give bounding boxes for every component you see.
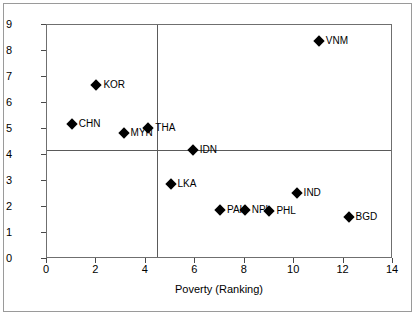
reference-line-vertical: [157, 25, 158, 257]
plot-area: CHNKORMYNTHALKAIDNPAKNPLPHLINDVNMBGD: [46, 24, 392, 258]
data-point-label: CHN: [79, 117, 101, 130]
y-axis-tick-label: 4: [0, 149, 12, 160]
x-axis-tick-label: 12: [323, 264, 363, 275]
diamond-marker-icon: [214, 204, 225, 215]
data-point-label: THA: [155, 121, 175, 134]
y-axis-tick-mark: [41, 50, 46, 51]
diamond-marker-icon: [313, 35, 324, 46]
x-axis-tick-mark: [145, 258, 146, 263]
diamond-marker-icon: [91, 79, 102, 90]
x-axis-tick-mark: [46, 258, 47, 263]
x-axis-tick-label: 4: [125, 264, 165, 275]
diamond-marker-icon: [291, 187, 302, 198]
x-axis-tick-mark: [95, 258, 96, 263]
data-point-label: IDN: [200, 143, 217, 156]
x-axis-tick-mark: [194, 258, 195, 263]
x-axis-tick-label: 6: [174, 264, 214, 275]
data-point-label: IND: [304, 186, 321, 199]
y-axis-tick-mark: [41, 180, 46, 181]
y-axis-tick-label: 3: [0, 175, 12, 186]
y-axis-tick-mark: [41, 128, 46, 129]
y-axis-tick-mark: [41, 102, 46, 103]
x-axis-tick-mark: [343, 258, 344, 263]
diamond-marker-icon: [66, 118, 77, 129]
data-point-label: PHL: [276, 204, 295, 217]
x-axis-tick-label: 2: [75, 264, 115, 275]
x-axis-tick-mark: [293, 258, 294, 263]
x-axis-label: Poverty (Ranking): [46, 283, 392, 295]
y-axis-tick-mark: [41, 154, 46, 155]
data-point-label: BGD: [356, 210, 378, 223]
x-axis-tick-label: 8: [224, 264, 264, 275]
x-axis-tick-label: 0: [26, 264, 66, 275]
y-axis-tick-mark: [41, 206, 46, 207]
y-axis-tick-label: 8: [0, 45, 12, 56]
diamond-marker-icon: [343, 212, 354, 223]
y-axis-tick-mark: [41, 24, 46, 25]
y-axis-tick-label: 7: [0, 71, 12, 82]
x-axis-tick-label: 14: [372, 264, 412, 275]
y-axis-tick-label: 6: [0, 97, 12, 108]
data-point-label: KOR: [103, 78, 125, 91]
y-axis-tick-label: 5: [0, 123, 12, 134]
diamond-marker-icon: [165, 178, 176, 189]
y-axis-tick-label: 1: [0, 227, 12, 238]
data-point-label: VNM: [326, 34, 348, 47]
x-axis-tick-mark: [392, 258, 393, 263]
x-axis-tick-label: 10: [273, 264, 313, 275]
y-axis-tick-mark: [41, 76, 46, 77]
y-axis-tick-mark: [41, 232, 46, 233]
y-axis-tick-label: 9: [0, 19, 12, 30]
x-axis-tick-mark: [244, 258, 245, 263]
reference-line-horizontal: [47, 150, 391, 151]
diamond-marker-icon: [187, 144, 198, 155]
diamond-marker-icon: [118, 127, 129, 138]
scatter-chart-figure: CHNKORMYNTHALKAIDNPAKNPLPHLINDVNMBGD Eco…: [0, 0, 415, 315]
y-axis-tick-label: 2: [0, 201, 12, 212]
data-point-label: LKA: [178, 177, 197, 190]
y-axis-tick-label: 0: [0, 253, 12, 264]
